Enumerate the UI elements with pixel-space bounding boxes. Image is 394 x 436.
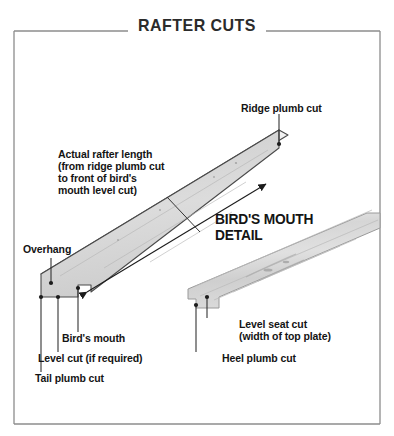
leader-dot-level-cut: [56, 295, 60, 299]
leader-dot-overhang: [49, 281, 53, 285]
diagram-canvas: [0, 0, 394, 436]
label-level-seat-cut-line1: Level seat cut: [239, 318, 307, 330]
label-actual-rafter-length-line1: Actual rafter length: [58, 148, 152, 160]
label-level-seat-cut-line2: (width of top plate): [239, 330, 331, 342]
figure-title: RAFTER CUTS: [12, 16, 382, 36]
label-heel-plumb-cut: Heel plumb cut: [222, 352, 296, 364]
leader-dot-birds-mouth: [76, 286, 80, 290]
rafter-cuts-figure: RAFTER CUTS Ridge plumb cut Actual rafte…: [0, 0, 394, 436]
label-birds-mouth-detail-line1: BIRD'S MOUTH: [215, 211, 313, 227]
label-actual-rafter-length-line2: (from ridge plumb cut: [58, 160, 164, 172]
label-overhang: Overhang: [23, 243, 71, 255]
label-actual-rafter-length-line4: mouth level cut): [58, 184, 137, 196]
leader-dot-tail-plumb-cut: [39, 295, 43, 299]
label-tail-plumb-cut: Tail plumb cut: [35, 372, 104, 384]
label-birds-mouth: Bird's mouth: [62, 332, 125, 344]
label-birds-mouth-detail-line2: DETAIL: [215, 227, 263, 243]
label-level-cut: Level cut (if required): [38, 352, 142, 364]
frame-border: [14, 31, 380, 424]
leader-dot-heel-plumb-cut: [194, 303, 198, 307]
leader-dot-level-seat-cut: [205, 295, 209, 299]
leader-dot-ridge: [277, 142, 281, 146]
label-actual-rafter-length-line3: to front of bird's: [58, 172, 137, 184]
label-ridge-plumb-cut: Ridge plumb cut: [241, 102, 322, 114]
